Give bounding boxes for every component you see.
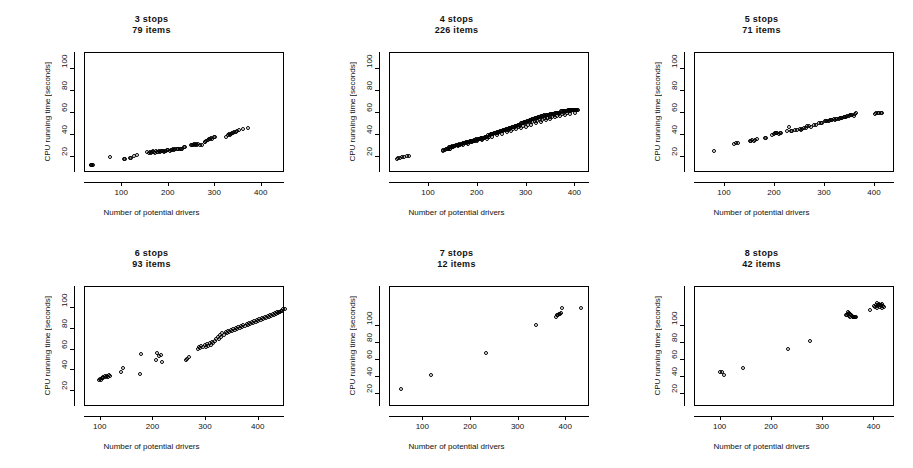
y-tick-label: 40 bbox=[670, 114, 679, 134]
panel-title: 4 stops226 items bbox=[305, 14, 608, 36]
y-axis-line bbox=[684, 52, 685, 172]
data-point bbox=[484, 135, 488, 139]
panel-title-items: 79 items bbox=[0, 25, 303, 36]
y-tick bbox=[375, 112, 379, 113]
data-point bbox=[882, 305, 886, 309]
plot-area bbox=[694, 286, 894, 406]
y-tick-label: 20 bbox=[365, 373, 374, 393]
data-point bbox=[499, 129, 503, 133]
data-point bbox=[880, 302, 884, 306]
y-tick-label: 20 bbox=[60, 136, 69, 156]
x-axis-line bbox=[84, 182, 284, 183]
data-point bbox=[123, 157, 127, 161]
figure-root: 3 stops79 items100200300400Number of pot… bbox=[0, 0, 913, 468]
y-tick-label: 40 bbox=[60, 349, 69, 369]
plot-area bbox=[694, 52, 894, 172]
x-axis-label: Number of potential drivers bbox=[610, 442, 913, 451]
y-tick bbox=[680, 342, 684, 343]
y-tick bbox=[70, 68, 74, 69]
scatter-panel-7-stops: 7 stops12 items100200300400Number of pot… bbox=[305, 234, 608, 468]
x-tick-label: 100 bbox=[93, 422, 106, 431]
data-point bbox=[764, 136, 768, 140]
x-tick-label: 200 bbox=[764, 422, 777, 431]
x-tick bbox=[205, 416, 206, 420]
y-tick bbox=[680, 68, 684, 69]
data-point bbox=[160, 360, 164, 364]
y-tick-label: 100 bbox=[60, 48, 69, 68]
y-tick-label: 100 bbox=[60, 287, 69, 307]
data-point bbox=[504, 128, 508, 132]
panel-title-items: 226 items bbox=[305, 25, 608, 36]
data-point bbox=[562, 111, 566, 115]
data-point bbox=[548, 115, 552, 119]
scatter-panel-8-stops: 8 stops42 items100200300400Number of pot… bbox=[610, 234, 913, 468]
x-tick-label: 200 bbox=[470, 188, 483, 197]
data-point bbox=[399, 387, 403, 391]
y-axis-label: CPU running time [seconds] bbox=[43, 62, 52, 162]
x-tick-label: 200 bbox=[767, 188, 780, 197]
data-point bbox=[484, 351, 488, 355]
y-tick-label: 80 bbox=[670, 70, 679, 90]
data-point bbox=[119, 370, 123, 374]
x-tick bbox=[470, 416, 471, 420]
x-tick bbox=[214, 182, 215, 186]
y-tick-label: 60 bbox=[670, 92, 679, 112]
data-point bbox=[139, 352, 143, 356]
data-point bbox=[108, 374, 112, 378]
y-axis-label-wrap: CPU running time [seconds] bbox=[40, 286, 54, 406]
panel-title: 5 stops71 items bbox=[610, 14, 913, 36]
x-axis-label: Number of potential drivers bbox=[610, 208, 913, 217]
data-point bbox=[465, 140, 469, 144]
y-tick-label: 100 bbox=[670, 305, 679, 325]
y-axis-label-wrap: CPU running time [seconds] bbox=[650, 52, 664, 172]
panel-title-items: 42 items bbox=[610, 259, 913, 270]
x-tick-label: 400 bbox=[251, 422, 264, 431]
scatter-panel-6-stops: 6 stops93 items100200300400Number of pot… bbox=[0, 234, 303, 468]
data-point bbox=[854, 315, 858, 319]
x-axis-line bbox=[389, 182, 589, 183]
y-tick-label: 20 bbox=[60, 370, 69, 390]
data-point bbox=[559, 311, 563, 315]
panel-title-stops: 4 stops bbox=[305, 14, 608, 25]
x-axis-label: Number of potential drivers bbox=[305, 208, 608, 217]
y-axis-label-wrap: CPU running time [seconds] bbox=[650, 286, 664, 406]
data-point bbox=[479, 136, 483, 140]
x-tick bbox=[422, 416, 423, 420]
plot-area bbox=[389, 286, 589, 406]
data-point bbox=[213, 135, 217, 139]
x-tick bbox=[724, 182, 725, 186]
y-tick bbox=[375, 68, 379, 69]
y-tick bbox=[70, 390, 74, 391]
x-tick bbox=[574, 182, 575, 186]
x-tick-label: 100 bbox=[717, 188, 730, 197]
data-point bbox=[543, 116, 547, 120]
plot-area bbox=[389, 52, 589, 172]
y-tick-label: 20 bbox=[670, 136, 679, 156]
x-tick bbox=[258, 416, 259, 420]
x-tick bbox=[428, 182, 429, 186]
x-tick-label: 300 bbox=[817, 188, 830, 197]
y-tick bbox=[70, 156, 74, 157]
x-tick-label: 300 bbox=[208, 188, 221, 197]
y-tick-label: 20 bbox=[365, 136, 374, 156]
y-tick bbox=[375, 325, 379, 326]
x-tick bbox=[518, 416, 519, 420]
x-tick-label: 400 bbox=[559, 422, 572, 431]
plot-area bbox=[84, 52, 284, 172]
x-tick bbox=[526, 182, 527, 186]
x-axis-label: Number of potential drivers bbox=[0, 208, 303, 217]
x-tick bbox=[168, 182, 169, 186]
data-point bbox=[755, 137, 759, 141]
x-tick-label: 300 bbox=[519, 188, 532, 197]
y-tick bbox=[375, 156, 379, 157]
data-point bbox=[722, 373, 726, 377]
x-tick-label: 100 bbox=[713, 422, 726, 431]
data-point bbox=[108, 155, 112, 159]
panel-title: 7 stops12 items bbox=[305, 248, 608, 270]
y-tick bbox=[70, 349, 74, 350]
y-tick bbox=[375, 359, 379, 360]
panel-title-items: 12 items bbox=[305, 259, 608, 270]
panel-title-items: 93 items bbox=[0, 259, 303, 270]
data-point bbox=[779, 131, 783, 135]
x-tick bbox=[121, 182, 122, 186]
